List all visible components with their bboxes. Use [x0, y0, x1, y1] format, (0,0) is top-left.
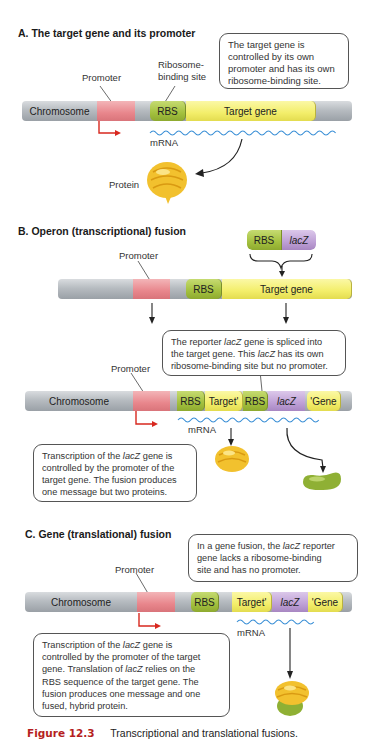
lacz-segment-c: lacZ: [272, 592, 308, 612]
callout-line: The reporter lacZ gene is spliced into: [171, 336, 337, 348]
figure-caption-text: Transcriptional and translational fusion…: [110, 727, 298, 739]
target-gene-segment-b-top: Target gene: [222, 279, 352, 299]
chromosome-label-b: Chromosome: [25, 391, 133, 411]
section-b-title: B. Operon (transcriptional) fusion: [18, 225, 186, 237]
chromosome-bar-a: Chromosome RBS Target gene: [22, 101, 352, 121]
protein-label: Protein: [109, 179, 139, 190]
callout-line: target gene. The fusion produces: [42, 474, 188, 486]
promoter-segment-a: [97, 101, 135, 121]
mrna-label-a: mRNA: [150, 137, 178, 148]
callout-line: site and has no promoter.: [197, 564, 349, 576]
rbs-lacz-insert: RBS lacZ: [247, 230, 316, 250]
callout-line: controlled by the promoter of the target: [42, 651, 221, 663]
callout-line: controlled by the promoter of the: [42, 462, 188, 474]
rbs-segment-c: RBS: [191, 592, 219, 612]
promoter-segment-b-bottom: [133, 391, 170, 411]
promoter-label-b-bottom: Promoter: [111, 363, 150, 374]
chromosome-bar-c: Chromosome RBS Target' lacZ 'Gene: [25, 592, 352, 612]
callout-line: fusion produces one message and one: [42, 688, 221, 700]
figure-caption: Figure 12.3 Transcriptional and translat…: [27, 727, 298, 739]
rbs-segment-a: RBS: [150, 101, 186, 121]
chromosome-label-a: Chromosome: [22, 101, 97, 121]
promoter-label-b-top: Promoter: [119, 250, 158, 261]
callout-line: In a gene fusion, the lacZ reporter: [197, 540, 349, 552]
promoter-segment-b-top: [133, 279, 170, 299]
protein-icon-b-lacz: [303, 473, 341, 491]
chromosome-label-c: Chromosome: [25, 592, 137, 612]
chromosome-bar-b-top: RBS Target gene: [58, 279, 352, 299]
figure-number: Figure 12.3: [27, 727, 95, 739]
callout-line: gene lacks a ribosome-binding: [197, 552, 349, 564]
promoter-label-c: Promoter: [115, 564, 154, 575]
insert-lacz: lacZ: [282, 230, 316, 250]
section-b-callout-top: The reporter lacZ gene is spliced into t…: [162, 330, 346, 376]
section-b-callout-bottom: Transcription of the lacZ gene is contro…: [33, 444, 197, 502]
gene-prime-segment-c: 'Gene: [308, 592, 343, 612]
lacz-segment-b: lacZ: [268, 391, 305, 411]
callout-line: gene. Translation of lacZ relies on the: [42, 663, 221, 675]
rbs2-segment-b: RBS: [243, 391, 268, 411]
mrna-label-c: mRNA: [237, 627, 265, 638]
section-c-title: C. Gene (translational) fusion: [25, 528, 171, 540]
target-prime-segment-b: Target': [205, 391, 243, 411]
hybrid-protein-icon: [275, 681, 309, 716]
callout-line: Transcription of the lacZ gene is: [42, 639, 221, 651]
callout-line: the target gene. This lacZ has its own: [171, 348, 337, 360]
mrna-label-b: mRNA: [188, 424, 216, 435]
target-gene-segment-a: Target gene: [186, 101, 316, 121]
gene-prime-segment-b: 'Gene: [307, 391, 341, 411]
callout-line: ribosome-binding site but no promoter.: [171, 360, 337, 372]
callout-line: one message but two proteins.: [42, 486, 188, 498]
promoter-segment-c: [137, 592, 175, 612]
insert-rbs: RBS: [247, 230, 282, 250]
callout-line: RBS sequence of the target gene. The: [42, 676, 221, 688]
protein-icon-a: [147, 162, 187, 204]
target-prime-segment-c: Target': [232, 592, 272, 612]
callout-line: Transcription of the lacZ gene is: [42, 450, 188, 462]
protein-icon-b-target: [215, 446, 249, 472]
rbs1-segment-b: RBS: [177, 391, 205, 411]
callout-line: fused, hybrid protein.: [42, 700, 221, 712]
rbs-segment-b-top: RBS: [186, 279, 222, 299]
section-c-callout-top: In a gene fusion, the lacZ reporter gene…: [188, 534, 358, 582]
chromosome-bar-b-bottom: Chromosome RBS Target' RBS lacZ 'Gene: [25, 391, 352, 411]
section-c-callout-bottom: Transcription of the lacZ gene is contro…: [33, 633, 230, 717]
